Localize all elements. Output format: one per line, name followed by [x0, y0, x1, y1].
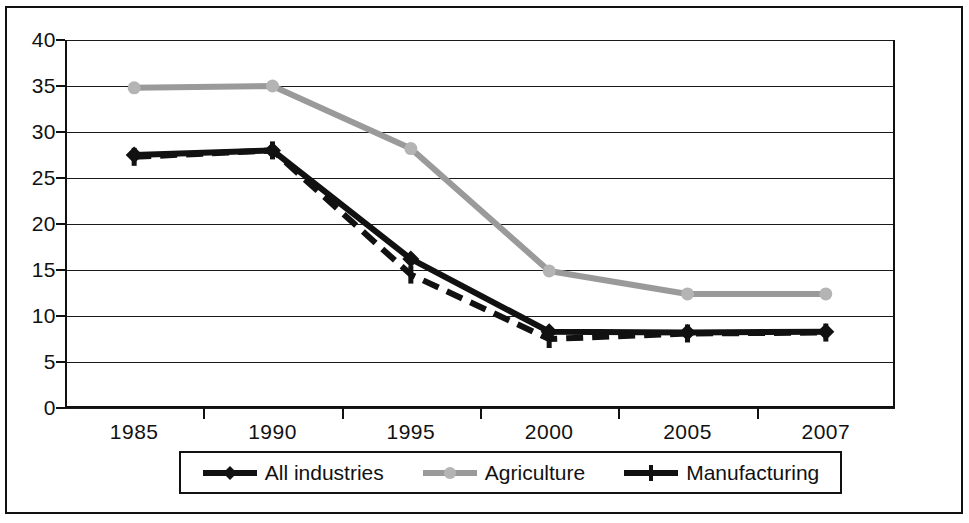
x-tick-label: 2000	[525, 420, 574, 444]
y-tick-mark	[56, 39, 65, 41]
y-tick-label: 40	[32, 28, 56, 52]
series-line	[134, 150, 826, 339]
legend-label: Agriculture	[485, 461, 585, 485]
y-tick-label: 15	[32, 258, 56, 282]
y-tick-mark	[56, 177, 65, 179]
x-tick-label: 2007	[801, 420, 850, 444]
y-tick-label: 35	[32, 74, 56, 98]
legend-marker-circle-icon	[422, 464, 478, 482]
x-tick-label: 2005	[663, 420, 712, 444]
x-tick-label: 1990	[248, 420, 297, 444]
y-tick-label: 30	[32, 120, 56, 144]
y-tick-mark	[56, 361, 65, 363]
y-tick-mark	[56, 407, 65, 409]
x-tick-mark	[480, 408, 482, 419]
series-line	[134, 86, 826, 294]
series-all-industries	[126, 142, 835, 341]
y-tick-mark	[56, 223, 65, 225]
legend-item-manufacturing: Manufacturing	[623, 461, 819, 485]
y-tick-label: 0	[44, 396, 56, 420]
x-tick-mark	[618, 408, 620, 419]
legend-item-agriculture: Agriculture	[422, 461, 585, 485]
y-tick-mark	[56, 85, 65, 87]
y-tick-label: 20	[32, 212, 56, 236]
y-tick-label: 5	[44, 350, 56, 374]
plot-area: 0510152025303540 19851990199520002005200…	[65, 40, 895, 408]
x-tick-label: 1995	[386, 420, 435, 444]
series-plot	[65, 40, 895, 408]
data-point-circle	[128, 81, 141, 94]
data-point-circle	[266, 80, 279, 93]
data-point-circle	[819, 287, 832, 300]
legend-item-all-industries: All industries	[202, 461, 384, 485]
chart-legend: All industries Agriculture Manufacturing	[179, 451, 842, 494]
legend-label: All industries	[265, 461, 384, 485]
data-point-circle	[543, 264, 556, 277]
legend-marker-diamond-icon	[202, 464, 258, 482]
y-tick-label: 25	[32, 166, 56, 190]
y-tick-mark	[56, 315, 65, 317]
chart-figure: 0510152025303540 19851990199520002005200…	[5, 6, 963, 514]
x-tick-mark	[342, 408, 344, 419]
x-tick-mark	[203, 408, 205, 419]
y-tick-mark	[56, 131, 65, 133]
x-tick-label: 1985	[110, 420, 159, 444]
y-tick-label: 10	[32, 304, 56, 328]
series-agriculture	[128, 80, 833, 301]
data-point-circle	[404, 142, 417, 155]
legend-marker-plus-icon	[623, 464, 679, 482]
series-manufacturing	[134, 141, 826, 348]
data-point-circle	[681, 287, 694, 300]
x-tick-mark	[757, 408, 759, 419]
legend-label: Manufacturing	[686, 461, 819, 485]
y-tick-mark	[56, 269, 65, 271]
